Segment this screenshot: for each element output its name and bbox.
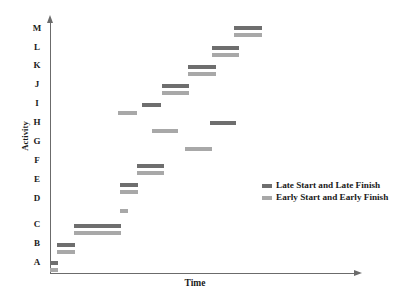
legend-label-late: Late Start and Late Finish [276,181,380,190]
bar-g-early [185,147,212,151]
bar-f-late [137,164,164,168]
bar-i-early [118,111,137,115]
bar-m-late [234,26,262,30]
legend-item-late: Late Start and Late Finish [262,180,412,192]
bar-k-early [188,72,216,76]
bars-layer [0,0,412,304]
bar-h-early [152,129,178,133]
bar-a-late [50,261,58,265]
legend-label-early: Early Start and Early Finish [276,193,388,202]
bar-l-early [212,53,239,57]
bar-f-early [137,171,164,175]
bar-j-late [162,84,189,88]
bar-b-early [57,250,75,254]
legend-swatch-late-icon [262,184,272,188]
bar-j-early [162,91,189,95]
bar-c-early [74,231,121,235]
bar-l-late [212,46,239,50]
bar-h-late [210,121,236,125]
bar-m-early [234,33,262,37]
bar-c-late [74,224,121,228]
gantt-float-chart: Activity Time MLKJIHGFEDCBA Late Start a… [0,0,412,304]
bar-i-late [142,103,161,107]
bar-d-early [120,209,128,213]
bar-b-late [57,243,75,247]
bar-e-early [120,190,138,194]
bar-a-early [50,268,58,272]
bar-e-late [120,183,138,187]
legend-item-early: Early Start and Early Finish [262,192,412,204]
bar-k-late [188,65,216,69]
chart-legend: Late Start and Late Finish Early Start a… [262,180,412,204]
legend-swatch-early-icon [262,196,272,200]
